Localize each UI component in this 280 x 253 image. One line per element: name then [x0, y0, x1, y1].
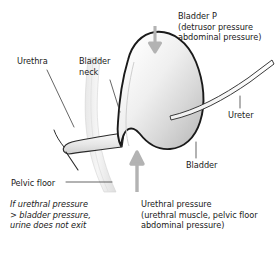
label-bladder: Bladder	[186, 160, 217, 171]
label-pelvic-floor: Pelvic floor	[11, 178, 55, 189]
label-continence-note-line2: > bladder pressure,	[10, 210, 91, 220]
label-bladder-neck-line1: Bladder	[79, 56, 110, 66]
urethral-pressure-arrow	[131, 152, 143, 192]
pelvic-floor-structure	[85, 58, 116, 192]
label-urethral-pressure-line3: abdominal pressure)	[141, 220, 224, 230]
label-bladder-pressure-line3: abdominal pressure)	[178, 32, 261, 42]
bladder-structure	[118, 32, 204, 149]
label-urethra: Urethra	[17, 56, 48, 67]
label-bladder-pressure-line2: (detrusor pressure	[178, 22, 253, 32]
label-continence-note-line1: If urethral pressure	[10, 199, 88, 209]
label-urethral-pressure: Urethral pressure (urethral muscle, pelv…	[141, 199, 258, 231]
label-urethral-pressure-line1: Urethral pressure	[141, 199, 211, 209]
label-bladder-pressure: Bladder P (detrusor pressure abdominal p…	[178, 11, 261, 43]
diagram-page: Bladder P (detrusor pressure abdominal p…	[0, 0, 280, 253]
label-bladder-pressure-line1: Bladder P	[178, 11, 217, 21]
leader-urethra	[47, 70, 74, 127]
label-bladder-neck: Bladder neck	[79, 56, 110, 77]
label-urethral-pressure-line2: (urethral muscle, pelvic floor	[141, 210, 258, 220]
leader-bladder-neck	[110, 80, 120, 112]
label-bladder-neck-line2: neck	[79, 67, 98, 77]
label-ureter: Ureter	[228, 110, 254, 121]
label-continence-note-line3: urine does not exit	[10, 220, 86, 230]
label-continence-note: If urethral pressure > bladder pressure,…	[10, 199, 91, 231]
